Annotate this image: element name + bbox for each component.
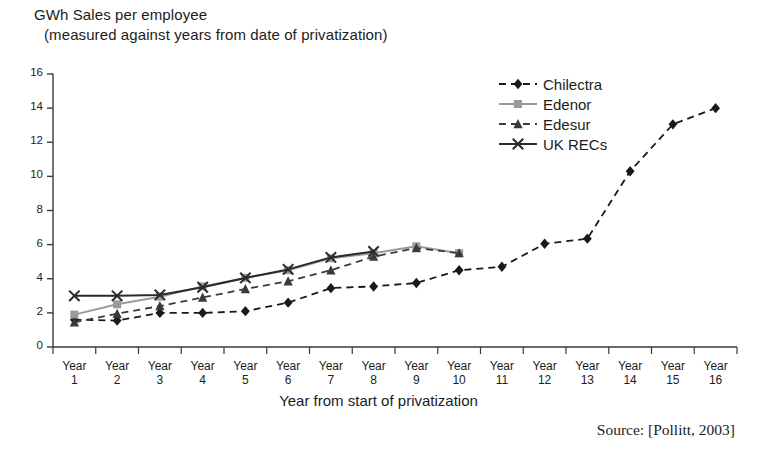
x-tick-word: Year xyxy=(95,359,139,373)
legend-item: Edenor xyxy=(497,94,607,114)
chart-figure: GWh Sales per employee (measured against… xyxy=(0,0,757,450)
x-axis-tick-label: Year16 xyxy=(694,359,738,387)
legend-symbol-glyph xyxy=(497,134,539,154)
legend-symbol xyxy=(497,94,539,114)
x-axis-tick-label: Year13 xyxy=(565,359,609,387)
legend-item: UK RECs xyxy=(497,134,607,154)
x-tick-word: Year xyxy=(309,359,353,373)
x-tick-number: 6 xyxy=(266,373,310,387)
x-tick-number: 14 xyxy=(608,373,652,387)
x-tick-number: 3 xyxy=(138,373,182,387)
legend-symbol xyxy=(497,114,539,134)
legend-item: Edesur xyxy=(497,114,607,134)
x-tick-word: Year xyxy=(565,359,609,373)
x-tick-word: Year xyxy=(523,359,567,373)
legend-symbol xyxy=(497,74,539,94)
x-tick-word: Year xyxy=(694,359,738,373)
x-axis-tick-label: Year3 xyxy=(138,359,182,387)
x-tick-number: 4 xyxy=(181,373,225,387)
x-tick-word: Year xyxy=(181,359,225,373)
legend-symbol-glyph xyxy=(497,94,539,114)
legend-label: Edenor xyxy=(539,96,591,113)
legend-item: Chilectra xyxy=(497,74,607,94)
x-tick-number: 12 xyxy=(523,373,567,387)
x-axis-tick-label: Year10 xyxy=(437,359,481,387)
x-axis-tick-label: Year4 xyxy=(181,359,225,387)
x-tick-number: 7 xyxy=(309,373,353,387)
legend-label: Edesur xyxy=(539,116,591,133)
x-tick-number: 1 xyxy=(52,373,96,387)
x-tick-number: 5 xyxy=(223,373,267,387)
source-caption: Source: [Pollitt, 2003] xyxy=(597,421,735,439)
x-tick-word: Year xyxy=(651,359,695,373)
x-tick-word: Year xyxy=(480,359,524,373)
x-axis-tick-label: Year14 xyxy=(608,359,652,387)
legend-symbol-glyph xyxy=(497,74,539,94)
x-tick-word: Year xyxy=(437,359,481,373)
x-tick-word: Year xyxy=(394,359,438,373)
x-tick-number: 15 xyxy=(651,373,695,387)
x-tick-number: 16 xyxy=(694,373,738,387)
legend-label: UK RECs xyxy=(539,136,607,153)
x-tick-word: Year xyxy=(223,359,267,373)
x-axis-tick-label: Year8 xyxy=(352,359,396,387)
x-tick-number: 9 xyxy=(394,373,438,387)
x-axis-tick-label: Year12 xyxy=(523,359,567,387)
x-axis-tick-label: Year5 xyxy=(223,359,267,387)
legend-symbol-glyph xyxy=(497,114,539,134)
x-axis-tick-label: Year9 xyxy=(394,359,438,387)
x-tick-number: 11 xyxy=(480,373,524,387)
x-tick-word: Year xyxy=(608,359,652,373)
x-tick-number: 10 xyxy=(437,373,481,387)
x-tick-number: 2 xyxy=(95,373,139,387)
x-tick-number: 8 xyxy=(352,373,396,387)
x-axis-tick-label: Year6 xyxy=(266,359,310,387)
x-axis-tick-labels: Year1Year2Year3Year4Year5Year6Year7Year8… xyxy=(0,0,757,450)
x-tick-word: Year xyxy=(52,359,96,373)
x-axis-tick-label: Year15 xyxy=(651,359,695,387)
marker-diamond xyxy=(514,79,523,89)
x-tick-word: Year xyxy=(266,359,310,373)
x-tick-word: Year xyxy=(138,359,182,373)
chart-legend: ChilectraEdenorEdesurUK RECs xyxy=(497,74,607,154)
legend-symbol xyxy=(497,134,539,154)
x-axis-tick-label: Year1 xyxy=(52,359,96,387)
x-axis-tick-label: Year7 xyxy=(309,359,353,387)
x-tick-number: 13 xyxy=(565,373,609,387)
x-tick-word: Year xyxy=(352,359,396,373)
marker-square xyxy=(514,100,522,108)
x-axis-tick-label: Year11 xyxy=(480,359,524,387)
x-axis-tick-label: Year2 xyxy=(95,359,139,387)
x-axis-title: Year from start of privatization xyxy=(0,392,757,409)
legend-label: Chilectra xyxy=(539,76,602,93)
